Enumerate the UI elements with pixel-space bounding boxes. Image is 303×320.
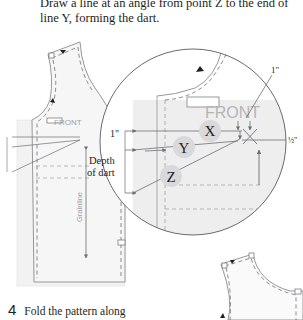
grainline-label: Grainline	[75, 192, 84, 222]
dart-diagram: FRONT Grainline FRONT	[0, 0, 303, 320]
measure-right-label: ½"	[288, 136, 297, 145]
depth-of-dart-label-1: Depth	[89, 155, 115, 166]
measure-left-label: 1"	[110, 128, 119, 139]
point-y-label: Y	[179, 140, 190, 156]
point-x-label: X	[205, 123, 216, 139]
svg-text:FRONT: FRONT	[54, 118, 82, 127]
depth-of-dart-label-2: of dart	[87, 167, 115, 178]
front-label: FRONT	[205, 104, 260, 121]
step-text: Fold the pattern along	[24, 305, 125, 317]
point-z-label: Z	[166, 169, 175, 185]
measure-top-label: 1"	[271, 65, 280, 75]
step-number: 4	[8, 301, 16, 318]
step-4: 4Fold the pattern along	[8, 301, 126, 318]
next-step-pattern-piece	[220, 253, 303, 320]
